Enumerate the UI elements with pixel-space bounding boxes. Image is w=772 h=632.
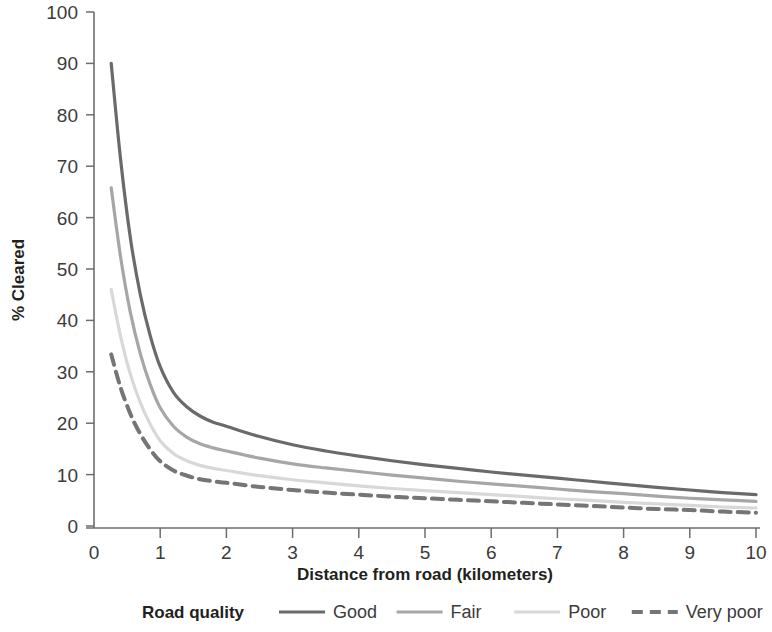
legend-label-good: Good: [333, 602, 377, 622]
x-tick-label: 7: [552, 542, 563, 563]
legend-title: Road quality: [142, 603, 245, 622]
y-axis-title: % Cleared: [9, 239, 28, 321]
series-line-poor: [111, 290, 756, 508]
y-tick-label: 70: [57, 156, 78, 177]
x-tick-label: 6: [486, 542, 497, 563]
x-tick-label: 4: [354, 542, 365, 563]
x-tick-label: 9: [685, 542, 696, 563]
series-line-good: [111, 63, 756, 494]
x-tick-label: 0: [89, 542, 100, 563]
x-tick-label: 1: [155, 542, 166, 563]
series-line-fair: [111, 188, 756, 502]
series-paths: [111, 63, 756, 512]
legend-label-very-poor: Very poor: [686, 602, 763, 622]
x-axis-title: Distance from road (kilometers): [297, 565, 553, 584]
y-tick-label: 20: [57, 413, 78, 434]
y-tick-label: 50: [57, 259, 78, 280]
y-tick-label: 10: [57, 465, 78, 486]
legend-label-poor: Poor: [568, 602, 606, 622]
y-tick-label: 40: [57, 310, 78, 331]
x-tick-label: 5: [420, 542, 431, 563]
x-tick-label: 3: [287, 542, 298, 563]
y-tick-label: 30: [57, 362, 78, 383]
y-tick-label: 0: [67, 516, 78, 537]
y-tick-label: 90: [57, 53, 78, 74]
x-tick-label: 10: [745, 542, 766, 563]
x-axis-ticks: 012345678910: [89, 528, 767, 563]
chart-figure: 0102030405060708090100 012345678910 % Cl…: [0, 0, 772, 632]
x-tick-label: 2: [221, 542, 232, 563]
y-tick-label: 60: [57, 208, 78, 229]
legend-label-fair: Fair: [451, 602, 482, 622]
x-tick-label: 8: [618, 542, 629, 563]
line-chart: 0102030405060708090100 012345678910 % Cl…: [0, 0, 772, 632]
y-tick-label: 100: [46, 2, 78, 23]
legend: Road qualityGoodFairPoorVery poor: [142, 602, 763, 622]
y-axis-ticks: 0102030405060708090100: [46, 2, 94, 537]
y-tick-label: 80: [57, 105, 78, 126]
